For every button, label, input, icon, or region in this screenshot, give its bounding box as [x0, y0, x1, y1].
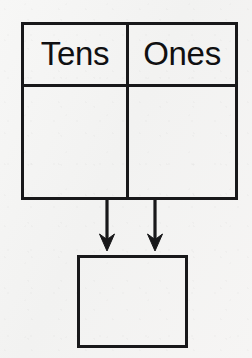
- table-entry-row: [24, 87, 235, 197]
- tens-arrow-icon: [100, 200, 115, 251]
- table-header-row: Tens Ones: [24, 25, 235, 87]
- ones-arrow-icon: [148, 200, 163, 251]
- entry-cell-tens[interactable]: [24, 87, 129, 197]
- header-cell-ones: Ones: [129, 25, 235, 84]
- column-header-label-tens: Tens: [41, 37, 110, 70]
- worksheet-page: Tens Ones: [0, 0, 252, 358]
- column-header-label-ones: Ones: [143, 37, 221, 70]
- answer-box[interactable]: [77, 255, 188, 348]
- header-cell-tens: Tens: [24, 25, 129, 84]
- entry-cell-ones[interactable]: [129, 87, 235, 197]
- place-value-table: Tens Ones: [21, 22, 238, 200]
